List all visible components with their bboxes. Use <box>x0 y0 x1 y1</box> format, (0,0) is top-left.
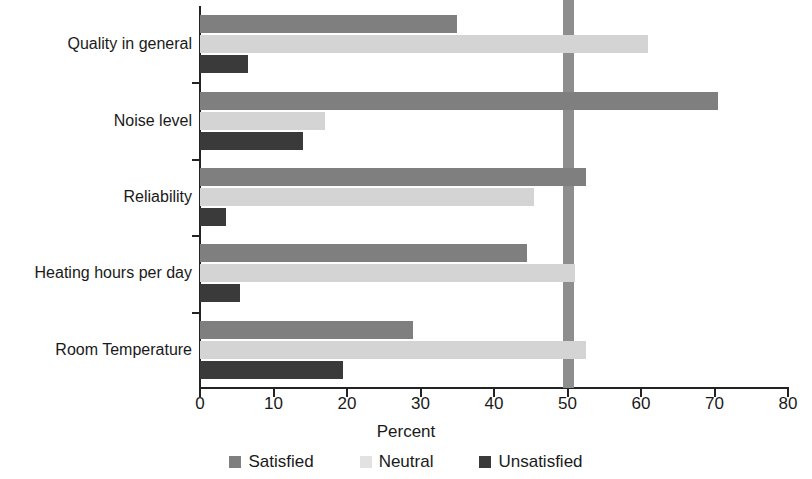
bar-unsatisfied <box>200 55 248 73</box>
bar-neutral <box>200 341 586 359</box>
bar-satisfied <box>200 15 457 33</box>
x-axis-tick-label: 70 <box>695 394 735 414</box>
bar-unsatisfied <box>200 208 226 226</box>
legend-label: Neutral <box>379 452 434 472</box>
bar-unsatisfied <box>200 132 303 150</box>
legend-label: Satisfied <box>248 452 313 472</box>
x-axis-tick-label: 60 <box>621 394 661 414</box>
x-axis-tick-label: 80 <box>768 394 808 414</box>
category-label-quality-in-general: Quality in general <box>0 35 192 53</box>
x-axis-title: Percent <box>0 422 812 442</box>
category-label-heating-hours-per-day: Heating hours per day <box>0 264 192 282</box>
x-axis-tick-label: 10 <box>254 394 294 414</box>
x-axis-tick-label: 0 <box>180 394 220 414</box>
unsatisfied-swatch-icon <box>479 456 491 468</box>
category-label-noise-level: Noise level <box>0 112 192 130</box>
bar-neutral <box>200 35 648 53</box>
horizontal-bar-chart: Quality in generalNoise levelReliability… <box>0 0 812 479</box>
bar-neutral <box>200 112 325 130</box>
x-axis-tick-label: 40 <box>474 394 514 414</box>
x-axis-tick-label: 50 <box>548 394 588 414</box>
legend-label: Unsatisfied <box>498 452 582 472</box>
legend-item-neutral: Neutral <box>360 452 434 472</box>
x-axis-tick-label: 20 <box>327 394 367 414</box>
y-axis-tick <box>192 159 201 161</box>
plot-area <box>200 6 788 388</box>
chart-legend: SatisfiedNeutralUnsatisfied <box>0 452 812 472</box>
satisfied-swatch-icon <box>229 456 241 468</box>
bar-neutral <box>200 188 534 206</box>
y-axis-tick <box>192 312 201 314</box>
legend-item-unsatisfied: Unsatisfied <box>479 452 582 472</box>
bar-satisfied <box>200 321 413 339</box>
bar-satisfied <box>200 168 586 186</box>
bar-neutral <box>200 264 575 282</box>
legend-item-satisfied: Satisfied <box>229 452 313 472</box>
neutral-swatch-icon <box>360 456 372 468</box>
bar-satisfied <box>200 244 527 262</box>
category-label-reliability: Reliability <box>0 188 192 206</box>
y-axis-tick <box>192 235 201 237</box>
y-axis-tick <box>192 82 201 84</box>
fifty-percent-reference-line <box>563 0 574 388</box>
x-axis-tick-label: 30 <box>401 394 441 414</box>
bar-unsatisfied <box>200 361 343 379</box>
bar-satisfied <box>200 92 718 110</box>
category-label-room-temperature: Room Temperature <box>0 341 192 359</box>
bar-unsatisfied <box>200 284 240 302</box>
